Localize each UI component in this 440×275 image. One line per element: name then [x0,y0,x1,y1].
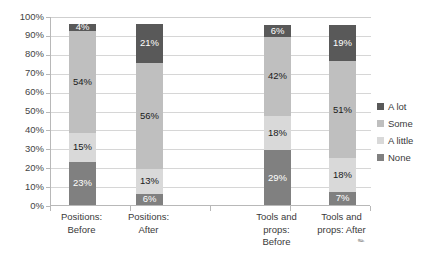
bar-segment[interactable]: 42% [264,37,291,116]
bar-segment[interactable]: 18% [264,116,291,150]
bar-segment-value-label: 54% [73,77,92,87]
legend-item-label: A little [388,136,413,146]
x-axis-tick-mark [210,206,211,211]
plot-area: 23%15%54%4%6%13%56%21%29%18%42%6%7%18%51… [50,17,370,206]
bar-segment[interactable]: 15% [69,133,96,161]
bar-segment[interactable]: 21% [136,24,163,64]
bar-segment-value-label: 13% [140,176,159,186]
bar-segment[interactable]: 13% [136,169,163,194]
bar-segment[interactable]: 19% [329,25,356,61]
bar-stack[interactable]: 23%15%54%4% [69,16,96,205]
gridline [51,149,371,150]
bar-segment-value-label: 29% [268,173,287,183]
legend-item[interactable]: None [377,149,439,166]
x-axis-category-label-line: After [101,224,197,237]
y-axis-tick-label: 100% [0,12,44,22]
gridline [51,93,371,94]
bar-segment[interactable]: 7% [329,192,356,205]
bar-segment-value-label: 6% [143,194,157,204]
bar-stack[interactable]: 6%13%56%21% [136,16,163,205]
bar-segment[interactable]: 54% [69,31,96,133]
bar-segment-value-label: 7% [336,193,350,203]
bar-stack[interactable]: 29%18%42%6% [264,16,291,205]
resize-handle-icon[interactable]: ✎ [357,236,367,246]
x-axis-category-label-line: props: After [294,224,390,237]
legend-swatch-icon [377,103,384,110]
bar-segment[interactable]: 56% [136,63,163,169]
gridline [51,130,371,131]
x-axis-category-label-line: Positions: [101,211,197,224]
chart-legend: A lotSomeA littleNone [377,98,439,166]
y-axis-tick-label: 30% [0,144,44,154]
y-axis-tick-label: 20% [0,163,44,173]
bar-segment[interactable]: 6% [136,194,163,205]
gridline [51,36,371,37]
legend-swatch-icon [377,154,384,161]
gridline [51,187,371,188]
bar-segment-value-label: 56% [140,111,159,121]
bar-segment-value-label: 42% [268,71,287,81]
percent-stacked-bar-chart: 0%10%20%30%40%50%60%70%80%90%100% 23%15%… [0,0,440,275]
x-axis-category-label-line: Before [229,236,325,249]
legend-swatch-icon [377,120,384,127]
bar-segment-value-label: 19% [333,38,352,48]
y-axis-tick-label: 0% [0,201,44,211]
bar-segment[interactable]: 29% [264,150,291,205]
gridline [51,112,371,113]
bar-segment-value-label: 23% [73,178,92,188]
y-axis-tick-label: 10% [0,182,44,192]
bar-stack[interactable]: 7%18%51%19% [329,16,356,205]
bar-segment-value-label: 21% [140,38,159,48]
legend-item[interactable]: A lot [377,98,439,115]
gridline [51,168,371,169]
bar-segment-value-label: 18% [333,170,352,180]
legend-item-label: A lot [388,102,407,112]
bar-segment[interactable]: 51% [329,61,356,157]
bar-segment-value-label: 15% [73,142,92,152]
x-axis-category-label: Tools andprops: After [294,211,390,236]
y-axis-tick-label: 50% [0,106,44,116]
legend-swatch-icon [377,137,384,144]
x-axis-category-label: Positions:After [101,211,197,236]
y-axis-tick-label: 90% [0,30,44,40]
bar-segment-value-label: 18% [268,128,287,138]
legend-item[interactable]: A little [377,132,439,149]
bar-segment[interactable]: 18% [329,158,356,192]
gridline [51,17,371,18]
y-axis-tick-label: 70% [0,68,44,78]
gridline [51,74,371,75]
bar-segment[interactable]: 23% [69,162,96,205]
bar-segment[interactable]: 4% [69,24,96,32]
y-axis-tick-label: 40% [0,125,44,135]
y-axis-tick-label: 60% [0,87,44,97]
bar-segment-value-label: 4% [76,24,90,32]
legend-item-label: Some [388,119,413,129]
legend-item-label: None [388,153,411,163]
bar-segment-value-label: 6% [271,26,285,36]
legend-item[interactable]: Some [377,115,439,132]
x-axis-category-label-line: Tools and [294,211,390,224]
bar-segment[interactable]: 6% [264,25,291,36]
y-axis-tick-label: 80% [0,49,44,59]
gridline [51,55,371,56]
bar-segment-value-label: 51% [333,105,352,115]
